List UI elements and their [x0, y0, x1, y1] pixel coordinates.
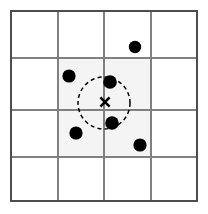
data-point-p5: [69, 126, 82, 139]
data-point-p2: [62, 69, 75, 82]
diagram-canvas: [0, 0, 208, 214]
data-point-p4: [105, 116, 119, 130]
grid-lines: [11, 11, 197, 201]
data-point-p1: [129, 41, 141, 53]
data-point-p6: [133, 138, 146, 151]
knn-grid-figure: [0, 0, 208, 214]
data-point-p3: [103, 75, 117, 89]
